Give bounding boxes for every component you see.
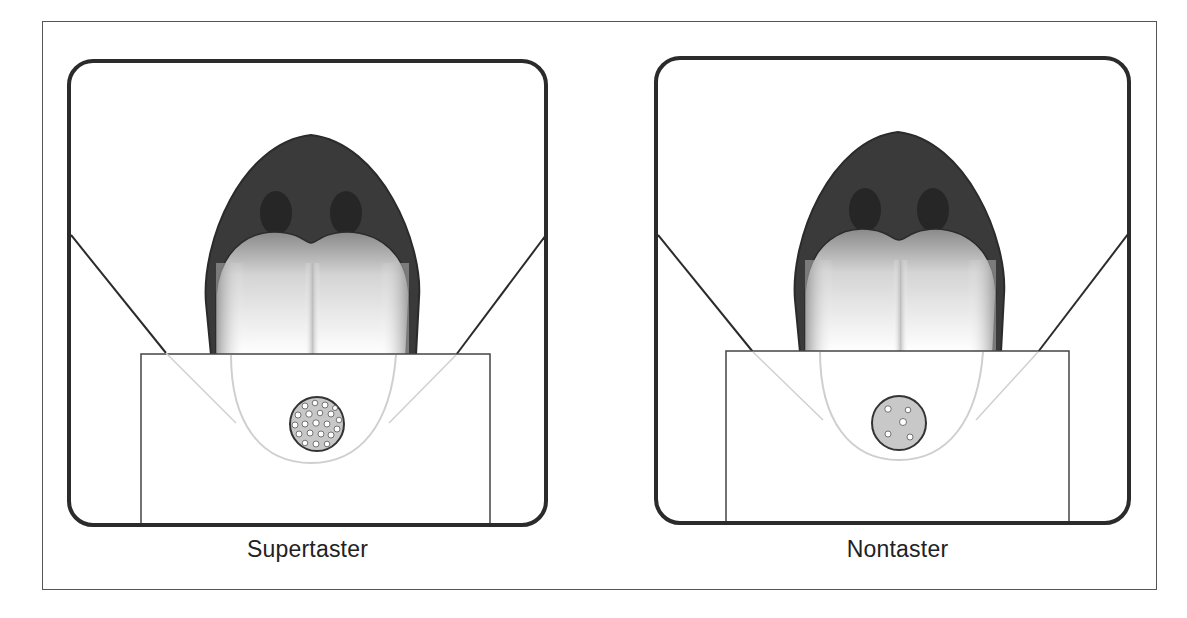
jaw-line-left <box>71 235 166 353</box>
jaw-line-right <box>1038 225 1131 352</box>
papillae-disc-dense <box>290 397 344 451</box>
supertaster-panel <box>67 59 548 527</box>
nontaster-caption: Nontaster <box>790 536 1005 563</box>
jaw-line-right <box>456 227 548 355</box>
supertaster-caption: Supertaster <box>200 536 415 563</box>
nontaster-panel <box>654 56 1131 525</box>
papillae-disc-sparse <box>872 396 926 450</box>
supertaster-illustration <box>71 63 548 527</box>
nontaster-illustration <box>658 60 1131 525</box>
jaw-line-left <box>658 235 753 352</box>
